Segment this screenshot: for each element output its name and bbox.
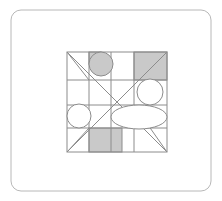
rect-bottom-center: [89, 128, 122, 152]
shaded-circle-top: [89, 52, 113, 76]
ellipses-group: [111, 105, 167, 129]
rect-top-right: [134, 52, 167, 80]
white-circle-right: [137, 79, 163, 105]
white-ellipse-lower-right: [111, 105, 167, 129]
white-circle-left: [67, 104, 91, 128]
canvas-frame: [0, 0, 222, 201]
geometric-figure-svg: [0, 0, 222, 201]
